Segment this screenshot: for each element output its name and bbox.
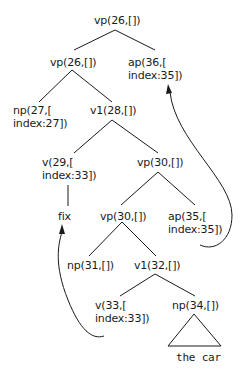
triangle-np34 (168, 314, 221, 346)
node-v33: v(33,[ index:33]) (95, 299, 149, 325)
node-vp30-inner: vp(30,[]) (100, 210, 146, 223)
edge-vp26-np27 (39, 70, 72, 102)
node-ap36-line2: index:35]) (128, 69, 182, 82)
node-root-vp26: vp(26,[]) (94, 14, 140, 27)
edge-vp30-ap35 (158, 172, 195, 205)
leaf-the-car: the car (176, 351, 221, 364)
node-v33-line1: v(33,[ (95, 299, 149, 312)
edge-v1-28-v29 (74, 120, 112, 153)
edge-vp30-inner-np31 (89, 222, 122, 256)
node-v1-28: v1(28,[]) (90, 104, 136, 117)
edge-root-ap36 (115, 30, 155, 50)
node-vp30: vp(30,[]) (137, 156, 183, 169)
arrowhead-ap36-icon (166, 84, 172, 94)
node-np34: np(34,[]) (172, 299, 219, 312)
arrowhead-fix-icon (59, 224, 65, 234)
edge-v1-32-np34 (155, 274, 195, 296)
node-v1-32: v1(32,[]) (134, 259, 180, 272)
node-ap36: ap(36,[ index:35]) (128, 56, 182, 82)
edge-vp26-v1-28 (72, 70, 112, 102)
node-ap35: ap(35,[ index:35]) (168, 210, 222, 236)
node-v29-line1: v(29,[ (42, 156, 96, 169)
node-ap35-line2: index:35]) (168, 223, 222, 236)
edge-root-vp26 (74, 30, 115, 50)
node-v29-line2: index:33]) (42, 169, 96, 182)
edge-vp30-vp30-inner (121, 172, 158, 205)
syntax-tree-diagram: vp(26,[]) vp(26,[]) ap(36,[ index:35]) n… (0, 0, 245, 372)
node-ap35-line1: ap(35,[ (168, 210, 222, 223)
node-fix: fix (58, 210, 71, 223)
node-np27-line1: np(27,[ (13, 104, 67, 117)
node-np27: np(27,[ index:27]) (13, 104, 67, 130)
node-v29: v(29,[ index:33]) (42, 156, 96, 182)
edge-v1-32-v33 (120, 274, 155, 296)
edge-vp30-inner-v1-32 (122, 222, 156, 256)
node-ap36-line1: ap(36,[ (128, 56, 182, 69)
node-np27-line2: index:27]) (13, 117, 67, 130)
edge-v1-28-vp30 (112, 120, 158, 153)
node-vp26: vp(26,[]) (50, 56, 96, 69)
node-np31: np(31,[]) (67, 259, 114, 272)
node-v33-line2: index:33]) (95, 312, 149, 325)
